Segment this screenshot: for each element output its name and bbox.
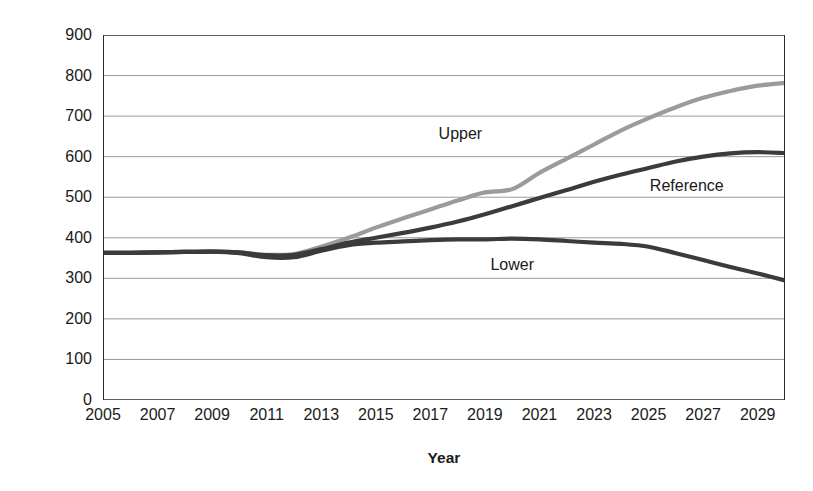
y-tick-label: 800: [40, 68, 92, 84]
series-annotation-lower: Lower: [487, 256, 537, 274]
x-tick-label: 2029: [740, 406, 776, 424]
x-tick-label: 2013: [303, 406, 339, 424]
y-tick-label: 900: [40, 27, 92, 43]
series-annotation-upper: Upper: [436, 125, 486, 143]
x-tick-label: 2027: [685, 406, 721, 424]
y-tick-label: 700: [40, 108, 92, 124]
x-axis-title: Year: [103, 449, 785, 467]
y-tick-label: 500: [40, 189, 92, 205]
y-tick-label: 600: [40, 149, 92, 165]
plot-frame: [103, 35, 785, 400]
x-tick-label: 2009: [194, 406, 230, 424]
chart-canvas: [103, 35, 785, 400]
gridlines: [103, 76, 785, 360]
x-tick-label: 2025: [631, 406, 667, 424]
x-tick-label: 2019: [467, 406, 503, 424]
x-tick-label: 2021: [522, 406, 558, 424]
nuclear-reactor-projection-chart: No. of nuclear power reactors 0100200300…: [0, 0, 813, 491]
y-tick-label: 300: [40, 270, 92, 286]
series-line-lower: [103, 239, 785, 281]
y-tick-label: 200: [40, 311, 92, 327]
y-tick-label: 100: [40, 351, 92, 367]
series-annotation-reference: Reference: [647, 177, 727, 195]
x-tick-label: 2007: [140, 406, 176, 424]
x-tick-label: 2005: [85, 406, 121, 424]
y-axis-tick-labels: 0100200300400500600700800900: [30, 35, 92, 400]
y-tick-label: 0: [40, 392, 92, 408]
y-tick-label: 400: [40, 230, 92, 246]
x-tick-label: 2011: [249, 406, 283, 424]
x-axis-tick-labels: 2005200720092011201320152017201920212023…: [103, 406, 785, 432]
axis-ticks: [103, 35, 785, 400]
x-tick-label: 2017: [413, 406, 449, 424]
series-line-upper: [103, 83, 785, 255]
x-tick-label: 2023: [576, 406, 612, 424]
plot-area: Upper Reference Lower: [103, 35, 785, 400]
x-tick-label: 2015: [358, 406, 394, 424]
